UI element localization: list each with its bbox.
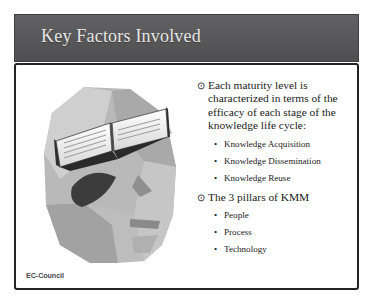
bullet-level2: • Process xyxy=(197,227,352,238)
ring-bullet-icon: ⊙ xyxy=(197,191,205,204)
dot-bullet-icon: • xyxy=(214,244,217,255)
bullet-level2: • People xyxy=(197,210,352,221)
bullet-level1-text: The 3 pillars of KMM xyxy=(208,191,309,203)
ec-council-logo: EC-Council xyxy=(26,271,64,280)
bullet-level2-text: Knowledge Dissemination xyxy=(224,156,321,166)
bullet-level2-text: Knowledge Reuse xyxy=(224,173,290,183)
dot-bullet-icon: • xyxy=(214,210,217,221)
dot-bullet-icon: • xyxy=(214,173,217,184)
bullet-level2: • Technology xyxy=(197,244,352,255)
ring-bullet-icon: ⊙ xyxy=(197,79,205,92)
dot-bullet-icon: • xyxy=(214,227,217,238)
bullet-level2: • Knowledge Reuse xyxy=(197,173,352,184)
dot-bullet-icon: • xyxy=(214,156,217,167)
bullet-level2-text: Technology xyxy=(224,244,267,254)
bullet-group: ⊙ The 3 pillars of KMM • People • Proces… xyxy=(197,191,352,255)
bullet-group: ⊙ Each maturity level is characterized i… xyxy=(197,79,352,184)
slide-title-bar: Key Factors Involved xyxy=(14,14,359,62)
bullet-level1: ⊙ The 3 pillars of KMM xyxy=(197,191,352,204)
bullet-level2: • Knowledge Dissemination xyxy=(197,156,352,167)
slide-title: Key Factors Involved xyxy=(41,26,201,47)
dot-bullet-icon: • xyxy=(214,139,217,150)
slide-bullet-list: ⊙ Each maturity level is characterized i… xyxy=(197,79,352,255)
bullet-level2-text: Process xyxy=(224,227,252,237)
bullet-level2-text: People xyxy=(224,210,249,220)
slide-body: ⊙ Each maturity level is characterized i… xyxy=(14,63,359,290)
bullet-level1-text: Each maturity level is characterized in … xyxy=(208,79,338,131)
head-with-book-illustration xyxy=(26,75,196,267)
bullet-level2-text: Knowledge Acquisition xyxy=(224,139,310,149)
bullet-level1: ⊙ Each maturity level is characterized i… xyxy=(197,79,352,133)
bullet-level2: • Knowledge Acquisition xyxy=(197,139,352,150)
presentation-slide: Key Factors Involved xyxy=(14,14,359,290)
